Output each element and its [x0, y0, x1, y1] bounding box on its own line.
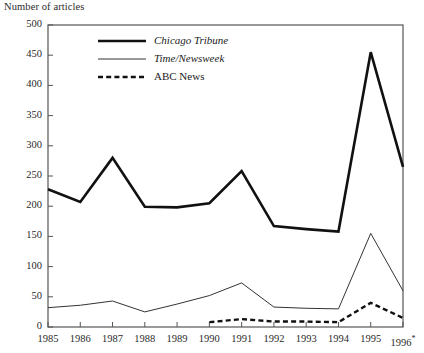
- x-tick-footnote-marker: *: [412, 334, 416, 343]
- legend-label: Chicago Tribune: [154, 33, 228, 48]
- legend-line-swatch: [96, 51, 148, 67]
- legend-line-swatch: [96, 33, 148, 49]
- legend-label: ABC News: [154, 69, 204, 84]
- series-lines: [48, 52, 403, 322]
- y-tick-label: 50: [8, 291, 42, 301]
- y-tick-label: 300: [8, 140, 42, 150]
- y-tick-label: 500: [8, 19, 42, 29]
- y-tick-label: 0: [8, 321, 42, 331]
- legend-line-swatch: [96, 69, 148, 85]
- y-tick-label: 150: [8, 230, 42, 240]
- legend-item: Chicago Tribune: [96, 33, 276, 49]
- chart-legend: Chicago TribuneTime/NewsweekABC News: [96, 33, 276, 87]
- x-tick-label: 1996*: [383, 333, 423, 348]
- y-tick-label: 100: [8, 261, 42, 271]
- legend-item: ABC News: [96, 69, 276, 85]
- y-tick-label: 400: [8, 79, 42, 89]
- legend-item: Time/Newsweek: [96, 51, 276, 67]
- series-line: [209, 303, 403, 322]
- y-tick-label: 350: [8, 110, 42, 120]
- chart-canvas: Number of articles 050100150200250300350…: [0, 0, 424, 353]
- series-line: [48, 233, 403, 312]
- y-tick-label: 200: [8, 200, 42, 210]
- y-tick-label: 250: [8, 170, 42, 180]
- y-tick-label: 450: [8, 49, 42, 59]
- legend-label: Time/Newsweek: [154, 51, 224, 66]
